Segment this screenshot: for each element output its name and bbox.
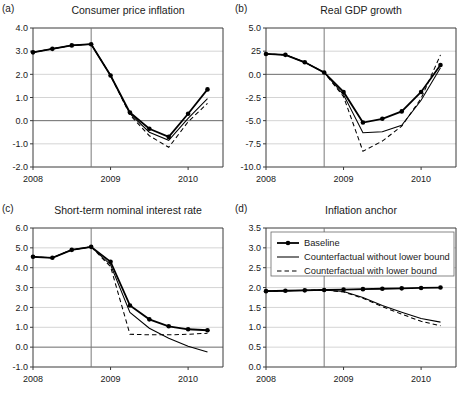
data-point-marker [341, 90, 346, 95]
chart-panel-d: (d)Inflation anchor3.53.02.52.01.51.00.5… [233, 200, 466, 407]
y-tick-label: 0.0 [248, 70, 261, 80]
y-tick-label: -1.0 [12, 139, 28, 149]
panel-title: Real GDP growth [320, 4, 402, 16]
data-point-marker [69, 248, 74, 253]
y-tick-label: 3.0 [248, 243, 261, 253]
x-tick-label: 2010 [178, 174, 198, 184]
x-tick-label: 2009 [101, 174, 121, 184]
data-point-marker [361, 120, 366, 125]
data-point-marker [361, 287, 366, 292]
y-tick-label: -7.5 [245, 139, 261, 149]
data-point-marker [205, 328, 210, 333]
data-point-marker [89, 245, 94, 250]
panel-letter: (c) [2, 203, 14, 214]
data-point-marker [108, 259, 113, 264]
y-tick-label: 0.0 [15, 116, 28, 126]
y-tick-label: 5.0 [248, 23, 261, 33]
legend-label: Counterfactual without lower bound [304, 252, 450, 262]
y-tick-label: -2.5 [245, 93, 261, 103]
data-point-marker [31, 50, 36, 55]
y-tick-label: 3.0 [15, 283, 28, 293]
y-tick-label: -2.0 [12, 162, 28, 172]
y-tick-label: 3.0 [15, 46, 28, 56]
data-point-marker [128, 303, 133, 308]
panel-title: Inflation anchor [325, 204, 397, 216]
data-point-marker [380, 286, 385, 291]
y-tick-label: 2.0 [15, 70, 28, 80]
legend-label: Baseline [304, 238, 340, 248]
y-tick-label: -1.0 [12, 362, 28, 372]
y-tick-label: 4.0 [15, 23, 28, 33]
data-point-marker [322, 288, 327, 293]
data-point-marker [166, 135, 171, 140]
figure-panel-grid: (a)Consumer price inflation4.03.02.01.00… [0, 0, 466, 414]
y-tick-label: 2.5 [248, 263, 261, 273]
y-tick-label: -10.0 [240, 162, 261, 172]
panel-letter: (d) [235, 203, 247, 214]
data-point-marker [147, 126, 152, 131]
y-tick-label: 3.5 [248, 223, 261, 233]
y-tick-label: 1.0 [15, 93, 28, 103]
panel-c-short-term-nominal-interest-rate: (c)Short-term nominal interest rate6.05.… [0, 200, 233, 407]
panel-title: Short-term nominal interest rate [54, 204, 202, 216]
y-tick-label: 4.0 [15, 263, 28, 273]
series-line-2 [266, 54, 440, 151]
data-point-marker [399, 286, 404, 291]
data-point-marker [302, 288, 307, 293]
data-point-marker [205, 87, 210, 92]
y-tick-label: 0.0 [248, 362, 261, 372]
y-tick-label: 6.0 [15, 223, 28, 233]
chart-panel-a: (a)Consumer price inflation4.03.02.01.00… [0, 0, 233, 207]
series-line-1 [266, 290, 440, 322]
chart-panel-c: (c)Short-term nominal interest rate6.05.… [0, 200, 233, 407]
x-tick-label: 2009 [334, 174, 354, 184]
data-point-marker [166, 324, 171, 329]
x-tick-label: 2010 [411, 174, 431, 184]
data-point-marker [283, 53, 288, 58]
data-point-marker [264, 289, 269, 294]
data-point-marker [322, 70, 327, 75]
y-tick-label: 0.5 [248, 342, 261, 352]
y-tick-label: -5.0 [245, 116, 261, 126]
x-tick-label: 2008 [23, 374, 43, 384]
plot-frame [33, 228, 223, 367]
panel-letter: (a) [2, 3, 14, 14]
panel-a-consumer-price-inflation: (a)Consumer price inflation4.03.02.01.00… [0, 0, 233, 207]
x-tick-label: 2008 [256, 174, 276, 184]
panel-b-real-gdp-growth: (b)Real GDP growth5.0250.0-2.5-5.0-7.5-1… [233, 0, 466, 207]
series-line-0 [33, 44, 207, 137]
data-point-marker [69, 43, 74, 48]
x-tick-label: 2010 [411, 374, 431, 384]
data-point-marker [341, 287, 346, 292]
data-point-marker [419, 90, 424, 95]
data-point-marker [31, 254, 36, 259]
x-tick-label: 2008 [23, 174, 43, 184]
y-tick-label: 2.0 [248, 283, 261, 293]
y-tick-label: 5.0 [15, 243, 28, 253]
data-point-marker [419, 286, 424, 291]
data-point-marker [438, 285, 443, 290]
data-point-marker [264, 52, 269, 57]
data-point-marker [128, 110, 133, 115]
y-tick-label: 1.0 [248, 322, 261, 332]
data-point-marker [108, 73, 113, 78]
series-line-2 [33, 247, 207, 335]
chart-panel-b: (b)Real GDP growth5.0250.0-2.5-5.0-7.5-1… [233, 0, 466, 207]
y-tick-label: 1.0 [15, 322, 28, 332]
series-line-0 [266, 288, 440, 292]
y-tick-label: 2.0 [15, 303, 28, 313]
data-point-marker [438, 63, 443, 68]
panel-d-inflation-anchor: (d)Inflation anchor3.53.02.52.01.51.00.5… [233, 200, 466, 407]
data-point-marker [283, 288, 288, 293]
legend-marker-baseline [286, 241, 291, 246]
x-tick-label: 2009 [334, 374, 354, 384]
legend-label: Counterfactual with lower bound [304, 266, 437, 276]
y-tick-label: 0.0 [15, 342, 28, 352]
data-point-marker [89, 42, 94, 47]
panel-title: Consumer price inflation [71, 4, 184, 16]
data-point-marker [399, 109, 404, 114]
series-line-0 [266, 54, 440, 123]
data-point-marker [186, 327, 191, 332]
panel-letter: (b) [235, 3, 247, 14]
data-point-marker [147, 317, 152, 322]
